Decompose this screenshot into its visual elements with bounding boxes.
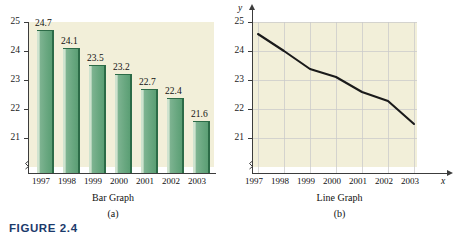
- line-xlabel-1999: 1999: [297, 176, 315, 186]
- bar-xlabel-2003: 2003: [188, 176, 206, 186]
- line-ylabel-21: 21: [226, 133, 244, 143]
- bar-ytick-22: [24, 109, 29, 110]
- bar-xlabel-1997: 1997: [32, 176, 50, 186]
- line-graph-panel: y x 25 24 23 22 21 1997 1998 1999 2000 2…: [226, 0, 453, 242]
- bar-1998: [63, 48, 80, 173]
- line-xlabel-2002: 2002: [375, 176, 393, 186]
- bar-1999: [89, 65, 106, 173]
- line-ylabel-24: 24: [226, 46, 244, 56]
- bar-y-axis: [28, 22, 29, 174]
- line-xlabel-2000: 2000: [323, 176, 341, 186]
- line-xlabel-1998: 1998: [271, 176, 289, 186]
- figure-label: FIGURE 2.4: [9, 222, 78, 234]
- bar-graph-caption-title: Bar Graph: [0, 192, 226, 203]
- line-ylabel-25: 25: [226, 17, 244, 27]
- bar-value-2002: 22.4: [165, 86, 182, 96]
- bar-ylabel-23: 23: [2, 75, 20, 85]
- line-graph-caption-letter: (b): [226, 208, 453, 219]
- bar-axis-break-icon: [24, 160, 33, 170]
- bar-ylabel-21: 21: [2, 133, 20, 143]
- line-ylabel-23: 23: [226, 75, 244, 85]
- bar-ylabel-24: 24: [2, 46, 20, 56]
- bar-graph-panel: 25 24 23 22 21 24.7 24.1 23.5 23.2 22.7 …: [0, 0, 226, 242]
- bar-xlabel-1999: 1999: [84, 176, 102, 186]
- bar-value-2003: 21.6: [191, 109, 208, 119]
- bar-1997: [37, 30, 54, 173]
- bar-ytick-23: [24, 80, 29, 81]
- bar-2002: [167, 98, 184, 173]
- bar-value-2000: 23.2: [113, 62, 130, 72]
- line-xlabel-2003: 2003: [401, 176, 419, 186]
- bar-graph-caption-letter: (a): [0, 208, 226, 219]
- line-ylabel-22: 22: [226, 104, 244, 114]
- bar-value-1999: 23.5: [87, 53, 104, 63]
- bar-2001: [141, 89, 158, 173]
- line-xlabel-1997: 1997: [245, 176, 263, 186]
- bar-xlabel-2001: 2001: [136, 176, 154, 186]
- bar-2003: [193, 121, 210, 173]
- bar-xlabel-2000: 2000: [110, 176, 128, 186]
- bar-value-1998: 24.1: [61, 36, 78, 46]
- bar-2000: [115, 74, 132, 173]
- bar-ytick-21: [24, 138, 29, 139]
- bar-x-axis: [28, 173, 216, 174]
- bar-ytick-24: [24, 51, 29, 52]
- line-graph-caption-title: Line Graph: [226, 192, 453, 203]
- bar-ylabel-22: 22: [2, 104, 20, 114]
- y-axis-name: y: [238, 3, 242, 13]
- bar-ylabel-25: 25: [2, 17, 20, 27]
- bar-xlabel-1998: 1998: [58, 176, 76, 186]
- bar-xlabel-2002: 2002: [162, 176, 180, 186]
- bar-value-1997: 24.7: [35, 18, 52, 28]
- bar-value-2001: 22.7: [139, 77, 156, 87]
- figure-2-4: 25 24 23 22 21 24.7 24.1 23.5 23.2 22.7 …: [0, 0, 453, 242]
- line-series-path: [253, 10, 449, 175]
- line-xlabel-2001: 2001: [349, 176, 367, 186]
- bar-ytick-25: [24, 22, 29, 23]
- x-axis-name: x: [441, 176, 445, 186]
